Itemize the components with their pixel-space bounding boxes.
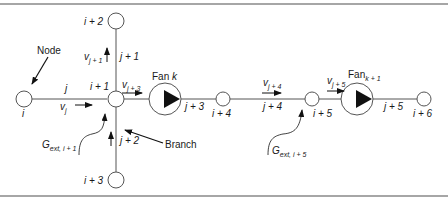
- label-branch-j: j: [63, 83, 68, 94]
- fan-k: [149, 83, 181, 115]
- label-node-i1: i + 1: [90, 81, 109, 92]
- node-i5: [305, 92, 319, 106]
- label-node-annotation: Node: [37, 45, 61, 56]
- label-branch-j4: j + 4: [261, 101, 283, 112]
- label-vj4: vj + 4: [263, 77, 282, 91]
- node-i2: [108, 13, 124, 29]
- ext-flow-i1-curve: [79, 114, 105, 155]
- label-node-i4: i + 4: [212, 108, 232, 119]
- node-i6: [417, 92, 431, 106]
- label-vj1: vj + 1: [84, 51, 103, 65]
- label-branch-j1: j + 1: [118, 51, 139, 62]
- label-vj5: vj + 5: [327, 75, 346, 89]
- node-i3: [108, 172, 124, 188]
- label-gext-i1: Gext, i + 1: [42, 139, 77, 152]
- label-gext-i5: Gext, i + 5: [272, 145, 307, 158]
- fan-k1: [341, 83, 373, 115]
- label-node-i3: i + 3: [84, 175, 104, 186]
- label-fan-k: Fan k: [152, 71, 178, 82]
- label-branch-annotation: Branch: [165, 139, 197, 150]
- label-branch-j5: j + 5: [382, 101, 404, 112]
- label-node-i2: i + 2: [84, 16, 104, 27]
- node-i: [16, 91, 32, 107]
- node-i1: [108, 91, 124, 107]
- label-branch-j3: j + 3: [183, 101, 205, 112]
- label-vj: vj: [60, 101, 67, 115]
- label-branch-j2: j + 2: [118, 135, 140, 146]
- label-node-i: i: [22, 108, 25, 119]
- label-node-i6: i + 6: [413, 108, 433, 119]
- label-node-i5: i + 5: [313, 108, 333, 119]
- node-pointer: [32, 57, 48, 84]
- label-fan-k1: Fank + 1: [348, 69, 381, 82]
- node-i4: [216, 92, 230, 106]
- network-diagram: i i + 1 i + 2 i + 3 i + 4 i + 5 i + 6 j …: [0, 0, 448, 200]
- label-vj3: vj + 3: [122, 79, 141, 93]
